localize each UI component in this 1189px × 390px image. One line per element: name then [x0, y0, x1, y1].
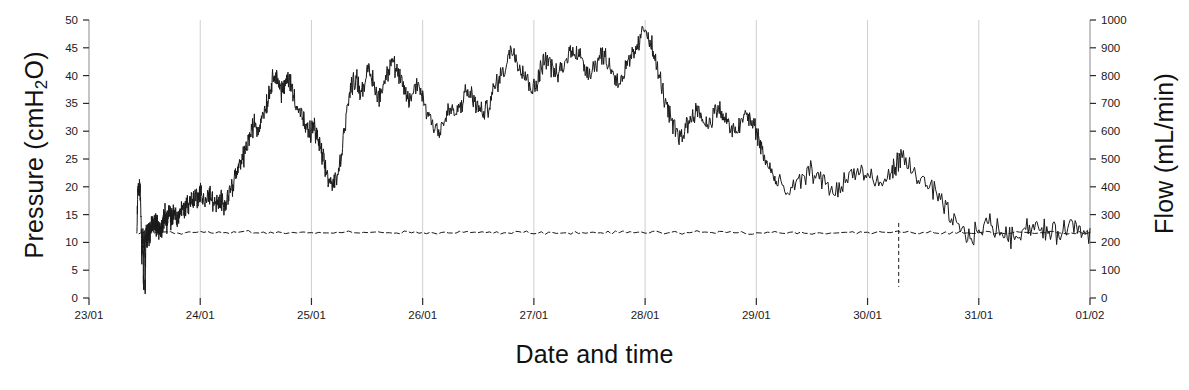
- x-axis: 23/0124/0125/0126/0127/0128/0129/0130/01…: [75, 298, 1105, 321]
- right-axis-tick-label: 500: [1101, 153, 1120, 165]
- left-axis-tick-label: 15: [65, 209, 78, 221]
- x-gridlines: [200, 20, 979, 298]
- right-axis-tick-label: 100: [1101, 264, 1120, 276]
- x-axis-tick-label: 28/01: [631, 309, 660, 321]
- x-axis-title: Date and time: [0, 340, 1189, 369]
- left-axis-tick-label: 10: [65, 236, 78, 248]
- left-axis-tick-label: 0: [72, 292, 78, 304]
- right-axis-tick-label: 1000: [1101, 14, 1127, 26]
- right-axis-tick-label: 200: [1101, 236, 1120, 248]
- data-series-layer: [137, 26, 1090, 294]
- left-axis-tick-label: 20: [65, 181, 78, 193]
- left-axis-tick-label: 45: [65, 42, 78, 54]
- x-axis-tick-label: 26/01: [408, 309, 437, 321]
- x-axis-tick-label: 01/02: [1076, 309, 1105, 321]
- y-axis-left-title-suffix: O): [20, 51, 48, 79]
- right-axis-tick-label: 800: [1101, 70, 1120, 82]
- y-axis-left-title-subscript: 2: [32, 79, 51, 89]
- x-axis-tick-label: 27/01: [519, 309, 548, 321]
- right-axis-tick-label: 300: [1101, 209, 1120, 221]
- x-axis-tick-label: 23/01: [75, 309, 104, 321]
- left-axis-tick-label: 35: [65, 97, 78, 109]
- left-axis-tick-label: 5: [72, 264, 78, 276]
- x-axis-tick-label: 25/01: [297, 309, 326, 321]
- right-axis-tick-label: 700: [1101, 97, 1120, 109]
- left-axis-tick-label: 50: [65, 14, 78, 26]
- left-axis-tick-label: 40: [65, 70, 78, 82]
- left-axis-tick-label: 25: [65, 153, 78, 165]
- x-axis-tick-label: 31/01: [964, 309, 993, 321]
- right-axis-tick-label: 600: [1101, 125, 1120, 137]
- chart-figure: 05101520253035404550 0100200300400500600…: [0, 0, 1189, 390]
- y-axis-left-title-text: Pressure (cmH: [20, 89, 48, 258]
- series-line-pressure: [137, 26, 1090, 294]
- x-axis-tick-label: 30/01: [853, 309, 882, 321]
- x-axis-tick-label: 29/01: [742, 309, 771, 321]
- series-line-flow: [139, 231, 1090, 235]
- chart-canvas: 05101520253035404550 0100200300400500600…: [0, 0, 1189, 390]
- right-axis-tick-label: 900: [1101, 42, 1120, 54]
- x-axis-tick-label: 24/01: [186, 309, 215, 321]
- right-axis: 01002003004005006007008009001000: [1090, 14, 1127, 304]
- y-axis-left-title: Pressure (cmH2O): [20, 15, 52, 295]
- y-axis-right-title: Flow (mL/min): [1150, 14, 1179, 294]
- right-axis-tick-label: 400: [1101, 181, 1120, 193]
- left-axis-tick-label: 30: [65, 125, 78, 137]
- right-axis-tick-label: 0: [1101, 292, 1107, 304]
- left-axis: 05101520253035404550: [65, 14, 89, 304]
